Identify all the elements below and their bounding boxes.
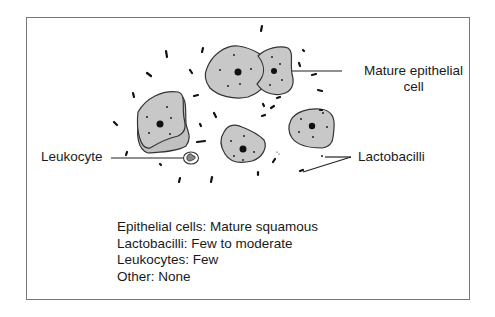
label-line-1: Mature epithelial	[364, 63, 463, 79]
epithelial-cell-right	[289, 109, 334, 148]
summary-line-epithelial: Epithelial cells: Mature squamous	[117, 219, 318, 236]
small-dots	[276, 151, 323, 157]
epithelial-cell-top-cluster	[205, 46, 293, 98]
lactobacilli-leader-line-lower	[303, 157, 351, 172]
epithelial-cell-middle	[221, 125, 265, 162]
leukocyte-label: Leukocyte	[41, 149, 103, 165]
summary-line-leukocytes: Leukocytes: Few	[117, 252, 318, 269]
epithelial-cell-left	[138, 92, 190, 153]
findings-summary: Epithelial cells: Mature squamous Lactob…	[117, 219, 318, 285]
summary-line-lactobacilli: Lactobacilli: Few to moderate	[117, 236, 318, 253]
lactobacilli-label: Lactobacilli	[358, 149, 425, 165]
label-line-2: cell	[364, 79, 463, 95]
mature-epithelial-cell-label: Mature epithelial cell	[364, 63, 463, 95]
leukocyte-cell	[184, 152, 199, 164]
summary-line-other: Other: None	[117, 269, 318, 286]
